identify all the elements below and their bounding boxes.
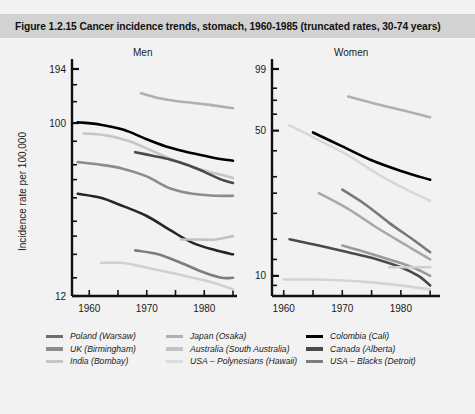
chart-legend: Poland (Warsaw)UK (Birmingham)India (Bom… (0, 330, 475, 378)
series-line (313, 132, 430, 179)
figure-footer (0, 378, 475, 414)
legend-item[interactable]: USA – Polynesians (Hawaii) (166, 355, 297, 368)
legend-item[interactable]: Colombia (Cali) (306, 330, 416, 343)
series-line (348, 96, 430, 117)
series-line (78, 162, 233, 196)
legend-item-label: Poland (Warsaw) (70, 331, 136, 341)
legend-swatch-icon (166, 335, 183, 339)
series-line (342, 246, 430, 276)
legend-item-label: UK (Birmingham) (70, 344, 136, 354)
series-line (135, 250, 233, 278)
legend-item-label: Canada (Alberta) (330, 344, 395, 354)
x-tick-label: 1970 (331, 303, 354, 314)
y-tick-label: 100 (49, 118, 66, 129)
x-tick-label: 1980 (193, 303, 216, 314)
y-tick-label: 10 (255, 270, 267, 281)
figure-title-band: Figure 1.2.15 Cancer incidence trends, s… (0, 14, 475, 38)
figure-container: Figure 1.2.15 Cancer incidence trends, s… (0, 0, 475, 414)
series-line (284, 279, 430, 289)
legend-swatch-icon (166, 360, 183, 364)
x-tick-label: 1960 (78, 303, 101, 314)
legend-column-1: Poland (Warsaw)UK (Birmingham)India (Bom… (46, 330, 136, 368)
legend-item[interactable]: Japan (Osaka) (166, 330, 297, 343)
legend-item-label: Japan (Osaka) (190, 331, 246, 341)
series-line (141, 93, 233, 108)
y-tick-label: 12 (55, 291, 67, 302)
legend-item[interactable]: UK (Birmingham) (46, 343, 136, 356)
legend-item[interactable]: Poland (Warsaw) (46, 330, 136, 343)
legend-swatch-icon (46, 335, 63, 339)
legend-item[interactable]: India (Bombay) (46, 355, 136, 368)
legend-item[interactable]: Australia (South Australia) (166, 343, 297, 356)
plot-area: Men Women Incidence rate per 100,000 121… (0, 38, 475, 328)
legend-item[interactable]: USA – Blacks (Detroit) (306, 355, 416, 368)
legend-swatch-icon (306, 360, 323, 364)
series-line (342, 190, 430, 253)
y-tick-label: 194 (49, 64, 66, 75)
legend-item-label: India (Bombay) (70, 356, 128, 366)
legend-item-label: Australia (South Australia) (190, 344, 290, 354)
y-tick-label: 50 (255, 125, 267, 136)
x-tick-label: 1960 (273, 303, 296, 314)
legend-item-label: USA – Blacks (Detroit) (330, 356, 416, 366)
series-line (181, 236, 233, 240)
y-tick-label: 99 (255, 64, 267, 75)
series-line (78, 122, 233, 160)
chart-canvas: 12100194196019701980105099196019701980 (0, 38, 475, 328)
legend-item-label: USA – Polynesians (Hawaii) (190, 356, 297, 366)
x-tick-label: 1980 (390, 303, 413, 314)
legend-swatch-icon (166, 347, 183, 351)
x-tick-label: 1970 (136, 303, 159, 314)
figure-title: Figure 1.2.15 Cancer incidence trends, s… (0, 21, 441, 32)
legend-swatch-icon (306, 347, 323, 351)
legend-item-label: Colombia (Cali) (330, 331, 389, 341)
legend-column-2: Japan (Osaka)Australia (South Australia)… (166, 330, 297, 368)
legend-item[interactable]: Canada (Alberta) (306, 343, 416, 356)
legend-swatch-icon (306, 335, 323, 339)
legend-column-3: Colombia (Cali)Canada (Alberta)USA – Bla… (306, 330, 416, 368)
legend-swatch-icon (46, 360, 63, 364)
series-line (290, 125, 431, 200)
series-line (78, 194, 233, 255)
legend-swatch-icon (46, 347, 63, 351)
